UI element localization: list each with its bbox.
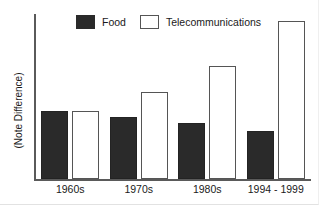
bar-telecommunications-1994-1999 bbox=[278, 21, 305, 179]
bar-group bbox=[110, 14, 168, 179]
bar-food-1970s bbox=[110, 117, 137, 179]
x-tick-label: 1970s bbox=[124, 183, 153, 195]
bar-chart: Food Telecommunications (Note Difference… bbox=[0, 0, 319, 205]
bar-food-1980s bbox=[178, 123, 205, 179]
bar-telecommunications-1960s bbox=[72, 111, 99, 179]
bar-group bbox=[178, 14, 236, 179]
x-axis-tick-labels: 1960s1970s1980s1994 - 1999 bbox=[36, 183, 310, 199]
x-tick-label: 1960s bbox=[56, 183, 85, 195]
bar-telecommunications-1970s bbox=[141, 92, 168, 179]
bar-food-1994-1999 bbox=[247, 131, 274, 179]
y-axis-title: (Note Difference) bbox=[13, 46, 24, 176]
bar-telecommunications-1980s bbox=[209, 66, 236, 179]
x-tick-label: 1994 - 1999 bbox=[248, 183, 304, 195]
x-axis-line bbox=[34, 179, 311, 181]
bar-group bbox=[247, 14, 305, 179]
bar-food-1960s bbox=[41, 111, 68, 179]
x-tick-label: 1980s bbox=[193, 183, 222, 195]
bar-group bbox=[41, 14, 99, 179]
plot-area bbox=[36, 14, 310, 179]
